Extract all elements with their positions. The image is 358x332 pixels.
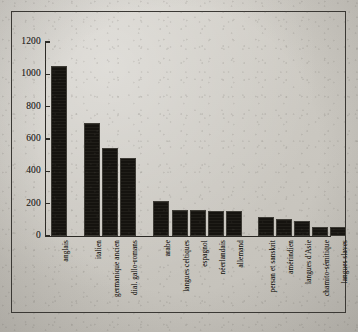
category-label-text: langues celtiques — [183, 240, 191, 292]
y-axis-tick — [45, 171, 50, 172]
category-label: espagnol — [201, 213, 209, 240]
category-label: dial. gallo-romans — [131, 185, 139, 240]
y-axis-tick-label: 200 — [7, 198, 41, 208]
y-axis-tick — [45, 203, 50, 204]
category-label: anglais — [62, 219, 70, 240]
category-label: langues slaves — [341, 197, 349, 240]
bar — [84, 123, 100, 236]
category-label: chamito-sémitique — [323, 184, 331, 240]
category-label-text: anglais — [62, 240, 70, 261]
y-axis-tick — [45, 138, 50, 139]
category-label-text: arabe — [164, 240, 172, 256]
y-axis-tick — [45, 106, 50, 107]
category-label: langues celtiques — [183, 188, 191, 240]
category-label: italien — [95, 221, 103, 240]
category-label-text: italien — [95, 240, 103, 259]
category-label-text: espagnol — [201, 240, 209, 267]
category-label: arabe — [164, 224, 172, 240]
y-axis-tick-label: 1200 — [7, 36, 41, 46]
category-label-text: persan et sanskrit — [269, 240, 277, 293]
category-label: allemand — [237, 212, 245, 240]
y-axis-tick-label: 1000 — [7, 68, 41, 78]
bar — [51, 66, 67, 236]
category-label-text: langues d'Asie — [305, 240, 313, 284]
category-label: langues d'Asie — [305, 196, 313, 240]
y-axis-tick — [45, 41, 50, 42]
category-label-text: dial. gallo-romans — [131, 240, 139, 295]
y-axis-tick-label: 600 — [7, 133, 41, 143]
category-label-text: germanique ancien — [113, 240, 121, 297]
y-axis-tick — [45, 235, 50, 236]
category-label-text: allemand — [237, 240, 245, 268]
category-label: persan et sanskrit — [269, 187, 277, 240]
y-axis-tick-label: 0 — [7, 230, 41, 240]
category-label-text: chamito-sémitique — [323, 240, 331, 296]
y-axis-tick — [45, 74, 50, 75]
category-label: germanique ancien — [113, 183, 121, 240]
category-label-text: néerlandais — [219, 240, 227, 274]
category-label: néerlandais — [219, 206, 227, 240]
y-axis-tick-label: 800 — [7, 101, 41, 111]
y-axis-tick-label: 400 — [7, 165, 41, 175]
category-label: amérindien — [287, 206, 295, 240]
category-label-text: langues slaves — [341, 240, 349, 283]
category-label-text: amérindien — [287, 240, 295, 274]
